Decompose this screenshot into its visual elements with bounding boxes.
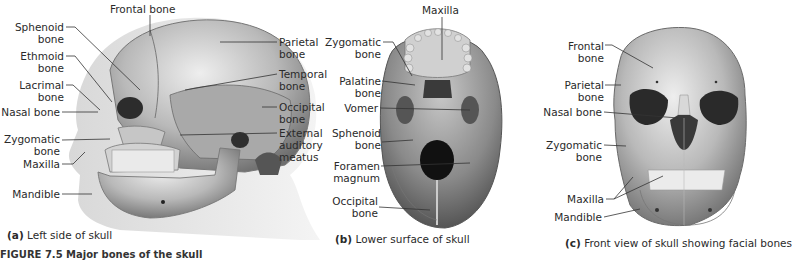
label-line: bone (320, 207, 378, 219)
label-maxilla-a: Maxilla (0, 158, 60, 170)
label-sphenoid-bone-b: Sphenoidbone (320, 127, 381, 151)
caption-a: (a) Left side of skull (7, 229, 112, 241)
label-line: bone (320, 48, 381, 60)
label-line: Occipital (320, 195, 378, 207)
label-frontal-bone-c: Frontalbone (540, 40, 604, 64)
label-line: Parietal (279, 36, 318, 48)
label-zygomatic-bone-b: Zygomaticbone (320, 36, 381, 60)
label-line: Ethmoid (12, 50, 64, 62)
label-frontal-bone-a: Frontal bone (110, 3, 175, 15)
label-nasal-bone-c: Nasal bone (520, 106, 602, 118)
label-vomer-b: Vomer (320, 102, 378, 114)
label-foramen-magnum-b: Foramenmagnum (320, 160, 380, 184)
label-mandible-c: Mandible (530, 211, 602, 223)
label-zygomatic-bone-c: Zygomaticbone (540, 139, 602, 163)
caption-letter: (c) (565, 237, 581, 249)
label-occipital-bone-b: Occipitalbone (320, 195, 378, 219)
caption-text: Left side of skull (27, 229, 112, 241)
label-line: bone (0, 145, 60, 157)
label-line: Zygomatic (540, 139, 602, 151)
caption-b: (b) Lower surface of skull (335, 233, 470, 245)
label-line: External (279, 127, 323, 139)
caption-letter: (a) (7, 229, 24, 241)
label-line: bone (12, 33, 64, 45)
label-maxilla-c: Maxilla (540, 193, 604, 205)
label-line: Foramen (320, 160, 380, 172)
label-line: Sphenoid (320, 127, 381, 139)
label-line: bone (540, 151, 602, 163)
label-mandible-a: Mandible (0, 188, 60, 200)
label-line: bone (320, 139, 381, 151)
label-line: meatus (279, 151, 323, 163)
caption-letter: (b) (335, 233, 352, 245)
label-line: Lacrimal (12, 79, 64, 91)
caption-c: (c) Front view of skull showing facial b… (565, 237, 792, 249)
label-line: Frontal (540, 40, 604, 52)
label-nasal-bone-a: Nasal bone (0, 106, 60, 118)
caption-text: Front view of skull showing facial bones (584, 237, 792, 249)
label-line: bone (540, 91, 604, 103)
label-parietal-bone-a: Parietalbone (279, 36, 318, 60)
label-line: bone (12, 91, 64, 103)
label-parietal-bone-c: Parietalbone (540, 79, 604, 103)
label-line: bone (12, 62, 64, 74)
label-occipital-bone-a: Occipitalbone (279, 101, 325, 125)
label-line: Palatine (320, 75, 381, 87)
label-external-auditory-meatus-a: Externalauditorymeatus (279, 127, 323, 163)
label-line: auditory (279, 139, 323, 151)
label-lacrimal-bone-a: Lacrimalbone (12, 79, 64, 103)
caption-text: Lower surface of skull (355, 233, 469, 245)
label-palatine-bone-b: Palatinebone (320, 75, 381, 99)
figure-caption: FIGURE 7.5 Major bones of the skull (0, 249, 202, 260)
label-line: bone (320, 87, 381, 99)
label-maxilla-b: Maxilla (422, 4, 459, 16)
label-sphenoid-bone-a: Sphenoidbone (12, 21, 64, 45)
label-line: Zygomatic (0, 133, 60, 145)
label-line: magnum (320, 172, 380, 184)
inferior-skull (380, 29, 502, 229)
label-line: bone (279, 48, 318, 60)
label-line: bone (540, 52, 604, 64)
label-line: Parietal (540, 79, 604, 91)
label-line: Occipital (279, 101, 325, 113)
label-line: bone (279, 113, 325, 125)
label-line: Zygomatic (320, 36, 381, 48)
label-zygomatic-bone-a: Zygomaticbone (0, 133, 60, 157)
label-line: Sphenoid (12, 21, 64, 33)
label-ethmoid-bone-a: Ethmoidbone (12, 50, 64, 74)
